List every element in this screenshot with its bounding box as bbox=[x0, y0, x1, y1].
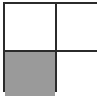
grid-cell-bottom-right[interactable] bbox=[57, 52, 101, 96]
grid-cell-top-left[interactable] bbox=[5, 4, 55, 50]
grid-cell-bottom-left[interactable] bbox=[5, 52, 55, 96]
grid-cell-top-right[interactable] bbox=[57, 4, 101, 50]
two-by-two-grid bbox=[3, 2, 97, 92]
